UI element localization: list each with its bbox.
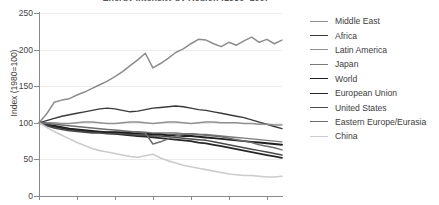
y-axis-tick-label: 100 bbox=[7, 119, 33, 127]
y-axis-tick bbox=[34, 50, 39, 51]
x-axis-tick bbox=[191, 196, 192, 200]
plot-area bbox=[39, 13, 282, 196]
legend-swatch-line-icon bbox=[310, 93, 328, 94]
x-axis-tick bbox=[267, 196, 268, 200]
chart-title: Energy Intensity by Region (1980=100) bbox=[70, 0, 300, 1]
y-axis-tick bbox=[34, 13, 39, 14]
x-axis-tick bbox=[153, 196, 154, 200]
chart-container: Energy Intensity by Region (1980=100) In… bbox=[0, 0, 439, 205]
legend-item-label: Latin America bbox=[335, 45, 387, 55]
x-axis-line bbox=[39, 196, 283, 197]
series-lines bbox=[39, 13, 282, 196]
y-axis-tick-label: 0 bbox=[7, 192, 33, 200]
y-axis-line bbox=[39, 12, 40, 197]
x-axis-tick bbox=[115, 196, 116, 200]
legend-item[interactable]: China bbox=[310, 129, 439, 143]
legend-item[interactable]: World bbox=[310, 72, 439, 86]
legend-item-label: Middle East bbox=[335, 16, 380, 26]
series-line bbox=[39, 106, 282, 129]
y-axis-tick bbox=[34, 86, 39, 87]
y-axis-tick-label: 50 bbox=[7, 155, 33, 163]
legend-swatch-line-icon bbox=[310, 35, 328, 36]
legend-swatch-line-icon bbox=[310, 64, 328, 65]
x-axis-tick bbox=[39, 196, 40, 200]
x-axis-tick bbox=[229, 196, 230, 200]
series-line bbox=[39, 122, 282, 125]
legend-item-label: United States bbox=[335, 103, 387, 113]
legend-item-label: World bbox=[335, 74, 357, 84]
y-axis-tick-label: 200 bbox=[7, 46, 33, 54]
legend-item[interactable]: United States bbox=[310, 100, 439, 114]
y-axis-tick-labels: 050100150200250 bbox=[0, 0, 33, 205]
y-axis-tick-label: 250 bbox=[7, 9, 33, 17]
legend-swatch-line-icon bbox=[310, 21, 328, 22]
x-axis-tick bbox=[77, 196, 78, 200]
y-axis-tick bbox=[34, 123, 39, 124]
series-line bbox=[39, 37, 282, 123]
legend-swatch-line-icon bbox=[310, 136, 328, 137]
legend-item-label: Africa bbox=[335, 31, 357, 41]
legend-item-label: China bbox=[335, 131, 357, 141]
legend-swatch-line-icon bbox=[310, 107, 328, 108]
legend-swatch-line-icon bbox=[310, 121, 328, 122]
legend-item[interactable]: Middle East bbox=[310, 14, 439, 28]
legend-item[interactable]: Eastern Europe/Eurasia bbox=[310, 115, 439, 129]
legend-swatch-line-icon bbox=[310, 49, 328, 50]
legend-item-label: Eastern Europe/Eurasia bbox=[335, 117, 426, 127]
legend-item-label: Japan bbox=[335, 59, 358, 69]
chart-legend: Middle EastAfricaLatin AmericaJapanWorld… bbox=[310, 14, 439, 144]
y-axis-tick bbox=[34, 159, 39, 160]
legend-item[interactable]: Japan bbox=[310, 57, 439, 71]
legend-item[interactable]: Africa bbox=[310, 28, 439, 42]
legend-item[interactable]: European Union bbox=[310, 86, 439, 100]
legend-item-label: European Union bbox=[335, 88, 397, 98]
legend-item[interactable]: Latin America bbox=[310, 43, 439, 57]
legend-swatch-line-icon bbox=[310, 78, 328, 79]
y-axis-tick-label: 150 bbox=[7, 82, 33, 90]
